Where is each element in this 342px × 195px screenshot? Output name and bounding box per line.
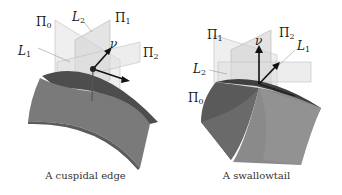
label-nu: ν: [255, 35, 262, 47]
caption-swallowtail: A swallowtail: [171, 170, 342, 181]
label-pi2: Π2: [279, 27, 295, 41]
label-l1: L1: [18, 45, 31, 59]
label-pi1: Π1: [207, 29, 223, 43]
label-pi0: Π0: [36, 16, 52, 30]
label-pi2: Π2: [143, 47, 159, 61]
label-pi0: Π0: [188, 92, 204, 106]
cuspidal-edge-illustration: [0, 0, 171, 195]
figure-cuspidal-edge: Π0 L2 Π1 L1 ν Π2 A cuspidal edge: [0, 0, 171, 195]
base-point: [90, 66, 96, 72]
figure-swallowtail: Π1 Π2 ν L1 L2 Π0 A swallowtail: [171, 0, 342, 195]
label-l1: L1: [297, 40, 310, 54]
label-pi1: Π1: [115, 12, 131, 26]
label-l2: L2: [72, 11, 85, 25]
label-l2: L2: [193, 63, 206, 77]
caption-cuspidal-edge: A cuspidal edge: [0, 170, 171, 181]
label-nu: ν: [110, 38, 117, 50]
